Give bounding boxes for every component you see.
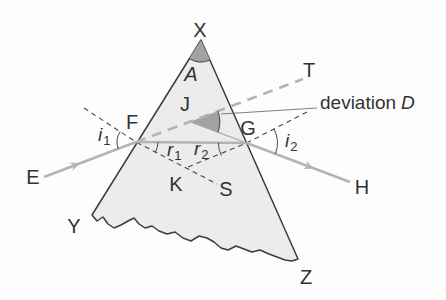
label-deviation-d: deviationD — [320, 92, 415, 113]
angle-r2-subscript: 2 — [201, 147, 208, 162]
refracted-ray — [136, 142, 247, 143]
label-y: Y — [67, 215, 80, 237]
prism-deviation-figure: X A T J F G E H K S Y Z i1 r1 r2 i2 devi… — [0, 0, 446, 300]
apex-angle-wedge — [189, 40, 210, 62]
label-h: H — [355, 176, 369, 198]
angle-i1-arc — [117, 132, 120, 149]
label-angle-i1: i1 — [98, 124, 110, 148]
label-apex-angle-a: A — [183, 63, 197, 85]
label-j: J — [180, 93, 190, 115]
label-angle-i2: i2 — [285, 130, 297, 154]
label-t: T — [303, 59, 315, 81]
label-g: G — [240, 117, 256, 139]
angle-r2-symbol: r — [194, 138, 201, 159]
deviation-label-pointer-line — [221, 108, 317, 114]
label-z: Z — [300, 266, 312, 288]
label-f: F — [126, 111, 138, 133]
prism-diagram-canvas: X A T J F G E H K S Y Z i1 r1 r2 i2 devi… — [0, 0, 446, 300]
angle-r1-subscript: 1 — [174, 148, 181, 163]
angle-i2-arc — [274, 129, 277, 154]
angle-i2-subscript: 2 — [290, 139, 297, 154]
label-s: S — [219, 178, 232, 200]
label-k: K — [169, 173, 183, 195]
label-e: E — [26, 166, 39, 188]
deviation-symbol: D — [401, 92, 415, 113]
deviation-word: deviation — [320, 92, 396, 113]
angle-r1-symbol: r — [167, 139, 174, 160]
angle-i1-subscript: 1 — [103, 133, 110, 148]
label-apex-x: X — [193, 19, 206, 41]
